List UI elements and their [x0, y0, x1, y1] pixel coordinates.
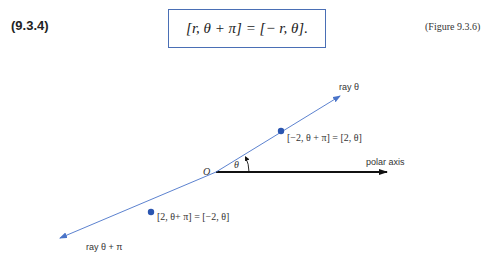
point-lower-label: [2, θ+ π] = [−2, θ]	[157, 211, 229, 222]
point-upper	[278, 128, 284, 134]
angle-label: θ	[234, 159, 239, 170]
ray-theta-pi-line	[60, 172, 216, 238]
origin-label: O	[203, 166, 210, 177]
polar-axis-label: polar axis	[366, 157, 405, 167]
polar-diagram: O θ polar axis ray θ ray θ + π [−2, θ + …	[0, 0, 499, 262]
ray-theta-label: ray θ	[339, 82, 359, 92]
angle-arc-icon	[246, 157, 250, 172]
point-lower	[148, 209, 154, 215]
ray-theta-pi-label: ray θ + π	[86, 242, 122, 252]
point-upper-label: [−2, θ + π] = [2, θ]	[287, 132, 362, 143]
